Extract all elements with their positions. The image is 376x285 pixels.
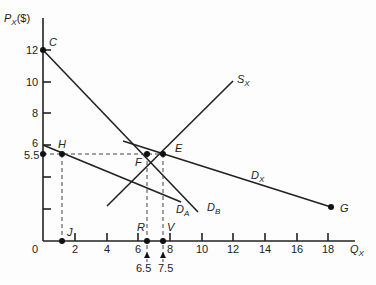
label-e: E — [175, 142, 183, 154]
label-h: H — [58, 138, 66, 150]
label-da: D — [176, 203, 184, 215]
diagram-canvas: PX($) 12 10 8 6 5.5 0 2 4 6 8 10 12 14 1… — [0, 0, 376, 285]
point-f — [144, 151, 150, 157]
y-tick-10: 10 — [26, 76, 38, 88]
y-tick-6: 6 — [32, 137, 38, 149]
x-tick-6: 6 — [135, 243, 141, 255]
x-tick-16: 16 — [291, 243, 303, 255]
y-tick-12: 12 — [26, 44, 38, 56]
x-tick-2: 2 — [72, 243, 78, 255]
x-tick-8: 8 — [167, 243, 173, 255]
x-tick-6-5: 6.5 — [136, 262, 151, 274]
point-r — [144, 238, 150, 244]
x-tick-0: 0 — [32, 243, 38, 255]
y-tick-8: 8 — [32, 107, 38, 119]
label-f: F — [135, 156, 143, 168]
label-r: R — [137, 221, 145, 233]
x-tick-14: 14 — [259, 243, 271, 255]
label-c: C — [49, 36, 57, 48]
diagram: PX($) 12 10 8 6 5.5 0 2 4 6 8 10 12 14 1… — [0, 0, 376, 285]
point-g — [328, 204, 334, 210]
label-dx: D — [251, 169, 259, 181]
x-tick-7-5: 7.5 — [158, 262, 173, 274]
label-v: V — [167, 221, 176, 233]
label-g: G — [340, 202, 349, 214]
demand-curve-db — [43, 50, 198, 212]
point-v — [160, 238, 166, 244]
point-c — [40, 47, 46, 53]
x-tick-4: 4 — [104, 243, 110, 255]
label-j: J — [66, 226, 73, 238]
point-55 — [40, 151, 46, 157]
supply-curve-sx — [107, 81, 233, 206]
x-tick-12: 12 — [227, 243, 239, 255]
point-h — [59, 151, 65, 157]
svg-text:PX($): PX($) — [4, 12, 30, 27]
svg-text:DB: DB — [207, 201, 221, 216]
x-tick-10: 10 — [196, 243, 208, 255]
svg-text:SX: SX — [237, 73, 250, 88]
y-tick-5-5: 5.5 — [24, 149, 39, 161]
svg-text:DA: DA — [176, 203, 189, 218]
point-j — [59, 238, 65, 244]
demand-curve-dx — [123, 141, 331, 207]
svg-text:QX: QX — [350, 243, 365, 258]
label-db: D — [207, 201, 215, 213]
point-e — [160, 151, 166, 157]
x-tick-18: 18 — [322, 243, 334, 255]
